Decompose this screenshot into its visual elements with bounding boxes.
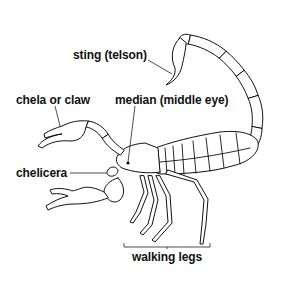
body bbox=[148, 131, 258, 174]
walking-legs-bracket bbox=[124, 243, 210, 249]
label-walking-legs: walking legs bbox=[132, 250, 202, 264]
label-chela: chela or claw bbox=[16, 93, 90, 107]
upper-pedipalp bbox=[38, 121, 124, 155]
lower-pedipalp bbox=[46, 178, 124, 210]
label-sting: sting (telson) bbox=[73, 48, 147, 62]
leader-line-chela bbox=[55, 106, 60, 126]
walking-legs bbox=[130, 170, 208, 244]
leader-line-sting bbox=[148, 60, 172, 74]
label-chelicera: chelicera bbox=[16, 166, 67, 180]
label-median-eye: median (middle eye) bbox=[115, 93, 228, 107]
scorpion-illustration bbox=[0, 0, 288, 282]
